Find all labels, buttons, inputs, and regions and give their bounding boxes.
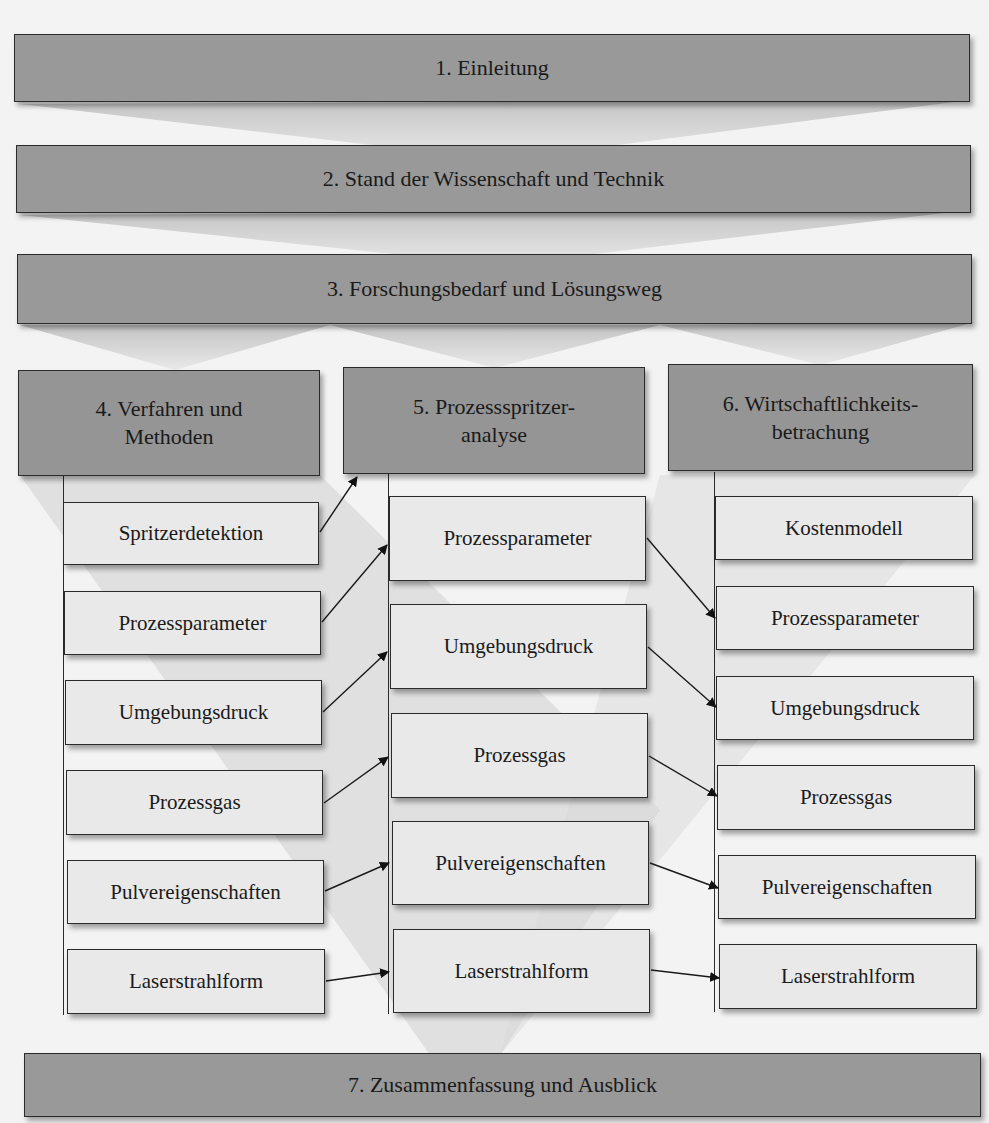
col5-item-pulvereigenschaften: Pulvereigenschaften [392, 821, 649, 905]
item-label: Pulvereigenschaften [435, 851, 605, 876]
item-label: Kostenmodell [785, 516, 903, 541]
column-4-header: 4. Verfahren und Methoden [18, 370, 320, 476]
item-label: Prozessparameter [443, 526, 591, 551]
column-5-header: 5. Prozessspritzer- analyse [343, 367, 645, 474]
item-label: Pulvereigenschaften [762, 875, 932, 900]
section-label: 3. Forschungsbedarf und Lösungsweg [327, 276, 662, 302]
col4-item-prozessgas: Prozessgas [66, 770, 323, 835]
section-2-state-of-art: 2. Stand der Wissenschaft und Technik [16, 145, 971, 213]
column-header-label: 5. Prozessspritzer- analyse [413, 393, 575, 449]
item-label: Prozessgas [800, 785, 892, 810]
col6-item-umgebungsdruck: Umgebungsdruck [716, 676, 974, 740]
item-label: Spritzerdetektion [119, 521, 264, 546]
chevron-mid [330, 325, 660, 368]
item-label: Laserstrahlform [454, 959, 588, 984]
col4-item-prozessparameter: Prozessparameter [64, 591, 321, 655]
col4-item-pulvereigenschaften: Pulvereigenschaften [67, 860, 324, 924]
item-label: Prozessgas [148, 790, 240, 815]
col5-item-laserstrahlform: Laserstrahlform [393, 929, 650, 1013]
chevron-left [20, 325, 330, 370]
item-label: Prozessgas [473, 743, 565, 768]
item-label: Umgebungsdruck [770, 696, 919, 721]
col4-item-spritzerdetektion: Spritzerdetektion [63, 502, 319, 565]
col5-item-umgebungsdruck: Umgebungsdruck [390, 604, 647, 689]
col5-item-prozessgas: Prozessgas [391, 713, 648, 798]
col6-item-prozessparameter: Prozessparameter [716, 586, 974, 650]
item-label: Laserstrahlform [129, 969, 263, 994]
column-6-header: 6. Wirtschaftlichkeits- betrachung [668, 364, 973, 471]
col4-item-laserstrahlform: Laserstrahlform [67, 949, 325, 1014]
col6-item-kostenmodell: Kostenmodell [715, 496, 973, 560]
col6-item-prozessgas: Prozessgas [717, 765, 975, 830]
col6-item-laserstrahlform: Laserstrahlform [719, 944, 977, 1009]
item-label: Prozessparameter [771, 606, 919, 631]
section-label: 7. Zusammenfassung und Ausblick [348, 1072, 657, 1098]
col6-item-pulvereigenschaften: Pulvereigenschaften [718, 855, 976, 919]
col4-item-umgebungsdruck: Umgebungsdruck [65, 680, 322, 745]
chevron-right [660, 322, 975, 365]
column-header-label: 4. Verfahren und Methoden [96, 395, 243, 451]
column-header-label: 6. Wirtschaftlichkeits- betrachung [723, 390, 918, 446]
section-label: 2. Stand der Wissenschaft und Technik [323, 166, 664, 192]
item-label: Umgebungsdruck [119, 700, 268, 725]
section-7-summary-outlook: 7. Zusammenfassung und Ausblick [24, 1053, 981, 1117]
item-label: Prozessparameter [118, 611, 266, 636]
item-label: Umgebungsdruck [444, 634, 593, 659]
section-1-introduction: 1. Einleitung [14, 34, 970, 102]
item-label: Laserstrahlform [781, 964, 915, 989]
item-label: Pulvereigenschaften [110, 880, 280, 905]
section-3-research-need: 3. Forschungsbedarf und Lösungsweg [17, 254, 972, 324]
section-label: 1. Einleitung [435, 55, 549, 81]
col5-item-prozessparameter: Prozessparameter [389, 496, 646, 581]
